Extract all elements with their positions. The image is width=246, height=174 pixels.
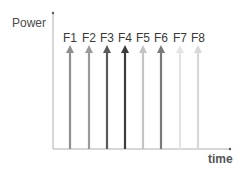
- arrow-f6: F6: [154, 31, 168, 149]
- arrow-label: F8: [191, 31, 205, 45]
- y-axis-arrowhead: [52, 12, 54, 14]
- arrow-f5: F5: [136, 31, 150, 149]
- arrowhead-icon: [66, 45, 74, 53]
- power-time-diagram: F1F2F3F4F5F6F7F8: [0, 0, 246, 174]
- arrowhead-icon: [139, 45, 147, 53]
- arrow-label: F3: [100, 31, 114, 45]
- arrow-label: F7: [173, 31, 187, 45]
- arrow-label: F1: [63, 31, 77, 45]
- frequency-arrows: F1F2F3F4F5F6F7F8: [63, 31, 205, 149]
- arrow-f7: F7: [173, 31, 187, 149]
- arrowhead-icon: [121, 45, 129, 53]
- arrow-label: F4: [118, 31, 132, 45]
- arrowhead-icon: [103, 45, 111, 53]
- arrowhead-icon: [157, 45, 165, 53]
- x-axis-arrowhead: [229, 148, 231, 150]
- arrow-f8: F8: [191, 31, 205, 149]
- arrow-f3: F3: [100, 31, 114, 149]
- arrow-label: F2: [82, 31, 96, 45]
- arrow-f1: F1: [63, 31, 77, 149]
- arrow-f2: F2: [82, 31, 96, 149]
- arrowhead-icon: [85, 45, 93, 53]
- arrow-f4: F4: [118, 31, 132, 149]
- arrow-label: F5: [136, 31, 150, 45]
- arrowhead-icon: [194, 45, 202, 53]
- arrow-label: F6: [154, 31, 168, 45]
- arrowhead-icon: [176, 45, 184, 53]
